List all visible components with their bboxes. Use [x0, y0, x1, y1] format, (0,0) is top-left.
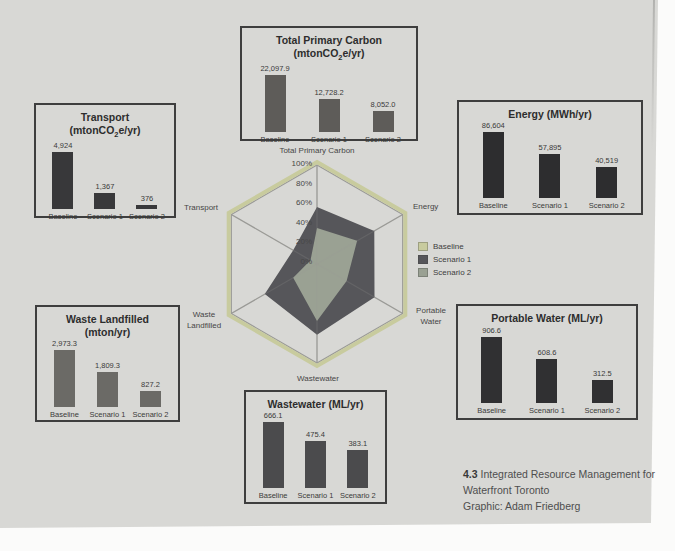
- caption-line-1: 4.3 Integrated Resource Management for: [463, 466, 673, 482]
- legend-label: Scenario 2: [433, 268, 471, 277]
- bar-plot: 4,9241,367376: [42, 141, 168, 209]
- category-label: Baseline: [248, 135, 302, 144]
- category-row: BaselineScenario 1Scenario 2: [252, 491, 379, 500]
- bar-column: 608.6: [519, 348, 574, 403]
- scenario-2-swatch: [418, 268, 428, 277]
- bar-column: 8,052.0: [356, 100, 410, 132]
- portable-water-chart: Portable Water (ML/yr)906.6608.6312.5Bas…: [456, 304, 638, 420]
- radar-axis-energy: Energy: [413, 202, 483, 213]
- bar-column: 86,604: [465, 121, 522, 198]
- bar-value-label: 608.6: [538, 348, 557, 357]
- bar-plot: 86,60457,89540,519: [465, 121, 635, 198]
- bar-column: 666.1: [252, 411, 294, 488]
- category-label: Scenario 1: [86, 410, 129, 419]
- bar-scenario-2: [596, 167, 617, 198]
- bar-column: 1,809.3: [86, 361, 129, 407]
- chart-unit: (mton/yr): [43, 326, 172, 339]
- bar-baseline: [265, 75, 286, 132]
- bar-value-label: 12,728.2: [314, 88, 343, 97]
- bar-column: 906.6: [464, 326, 519, 403]
- category-label: Scenario 2: [129, 410, 172, 419]
- category-label: Baseline: [42, 212, 84, 221]
- bar-value-label: 666.1: [264, 411, 283, 420]
- category-label: Scenario 1: [84, 212, 126, 221]
- baseline-swatch: [418, 242, 428, 251]
- category-label: Scenario 2: [356, 135, 410, 144]
- chart-title: Energy (MWh/yr): [465, 108, 635, 121]
- radar-axis-waste-landfilled: Waste Landfilled: [176, 310, 232, 331]
- scenario-1-swatch: [418, 255, 428, 264]
- transport-chart: Transport(mtonCO2e/yr)4,9241,367376Basel…: [34, 103, 176, 218]
- bar-column: 22,097.9: [248, 64, 302, 132]
- radar-chart: 100%80%60%40%20%0%: [207, 154, 427, 374]
- radar-tick-label: 80%: [296, 179, 312, 188]
- energy-chart: Energy (MWh/yr)86,60457,89540,519Baselin…: [457, 100, 643, 215]
- chart-title: Portable Water (ML/yr): [464, 312, 630, 325]
- legend: Baseline Scenario 1 Scenario 2: [418, 240, 471, 279]
- legend-row-scenario-1: Scenario 1: [418, 253, 471, 266]
- bar-baseline: [52, 152, 73, 209]
- wastewater-chart: Wastewater (ML/yr)666.1475.4383.1Baselin…: [244, 390, 387, 504]
- bar-value-label: 22,097.9: [260, 64, 289, 73]
- chart-title: Wastewater (ML/yr): [252, 398, 379, 411]
- bar-scenario-2: [140, 391, 161, 407]
- caption-title-part-1: Integrated Resource Management for: [481, 468, 656, 480]
- category-row: BaselineScenario 1Scenario 2: [464, 406, 630, 415]
- category-label: Baseline: [43, 410, 86, 419]
- bar-column: 475.4: [294, 430, 336, 488]
- bar-scenario-1: [539, 154, 560, 198]
- radar-axis-total-primary-carbon: Total Primary Carbon: [237, 146, 397, 157]
- bar-value-label: 4,924: [54, 141, 73, 150]
- chart-title: Waste Landfilled: [43, 313, 172, 326]
- radar-axis-transport: Transport: [163, 203, 218, 214]
- category-label: Baseline: [252, 491, 294, 500]
- waste-landfilled-chart: Waste Landfilled(mton/yr)2,973.31,809.38…: [35, 305, 180, 422]
- bar-plot: 22,097.912,728.28,052.0: [248, 64, 410, 132]
- bar-value-label: 2,973.3: [52, 339, 77, 348]
- bar-column: 57,895: [522, 143, 579, 198]
- bar-scenario-1: [536, 359, 557, 403]
- figure-number: 4.3: [463, 468, 478, 480]
- category-label: Scenario 2: [337, 491, 379, 500]
- bar-scenario-2: [373, 111, 394, 132]
- category-label: Scenario 2: [575, 406, 630, 415]
- bar-scenario-1: [305, 441, 326, 488]
- bar-value-label: 906.6: [482, 326, 501, 335]
- category-row: BaselineScenario 1Scenario 2: [248, 135, 410, 144]
- legend-row-scenario-2: Scenario 2: [418, 266, 471, 279]
- radar-axis-portable-water: Portable Water: [408, 306, 454, 327]
- figure-caption: 4.3 Integrated Resource Management for W…: [463, 466, 673, 514]
- chart-title: Total Primary Carbon: [248, 34, 410, 47]
- chart-title: Transport: [42, 111, 168, 124]
- bar-value-label: 383.1: [348, 439, 367, 448]
- chart-unit: (mtonCO2e/yr): [42, 124, 168, 141]
- bar-scenario-2: [136, 205, 157, 209]
- bar-scenario-1: [319, 99, 340, 132]
- category-row: BaselineScenario 1Scenario 2: [465, 201, 635, 210]
- category-row: BaselineScenario 1Scenario 2: [42, 212, 168, 221]
- bar-value-label: 1,367: [96, 182, 115, 191]
- bar-column: 4,924: [42, 141, 84, 209]
- radar-axis-wastewater: Wastewater: [248, 374, 388, 385]
- bar-column: 827.2: [129, 380, 172, 407]
- category-label: Scenario 1: [302, 135, 356, 144]
- bar-scenario-1: [97, 372, 118, 407]
- bar-value-label: 40,519: [595, 156, 618, 165]
- bar-column: 1,367: [84, 182, 126, 209]
- legend-label: Baseline: [433, 242, 464, 251]
- bar-value-label: 827.2: [141, 380, 160, 389]
- bar-scenario-2: [347, 450, 368, 488]
- radar-tick-label: 40%: [296, 218, 312, 227]
- bar-value-label: 1,809.3: [95, 361, 120, 370]
- bar-scenario-2: [592, 380, 613, 403]
- legend-label: Scenario 1: [433, 255, 471, 264]
- chart-unit: (mtonCO2e/yr): [248, 47, 410, 64]
- bar-column: 312.5: [575, 369, 630, 403]
- category-label: Scenario 1: [294, 491, 336, 500]
- category-label: Scenario 1: [522, 201, 579, 210]
- bar-baseline: [263, 422, 284, 488]
- bar-scenario-1: [94, 193, 115, 209]
- figure-page: Total Primary Carbon(mtonCO2e/yr)22,097.…: [0, 0, 675, 551]
- bar-value-label: 312.5: [593, 369, 612, 378]
- radar-tick-label: 20%: [296, 237, 312, 246]
